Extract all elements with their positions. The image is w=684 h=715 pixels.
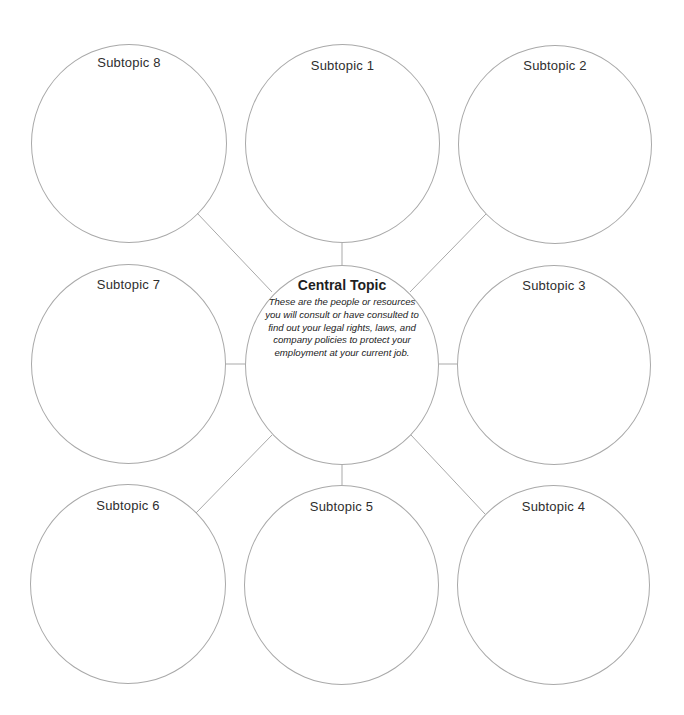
subtopic-6-label: Subtopic 6 [31,498,225,513]
central-topic-title: Central Topic [246,277,438,293]
subtopic-1-label: Subtopic 1 [246,58,439,73]
subtopic-7-bubble: Subtopic 7 [31,264,226,464]
subtopic-2-bubble: Subtopic 2 [458,45,652,244]
subtopic-4-bubble: Subtopic 4 [457,485,650,685]
subtopic-1-bubble: Subtopic 1 [245,44,440,243]
subtopic-7-label: Subtopic 7 [32,277,225,292]
subtopic-4-label: Subtopic 4 [458,499,649,514]
central-topic-description: These are the people or resources you wi… [260,296,424,360]
subtopic-2-label: Subtopic 2 [459,58,651,73]
subtopic-8-bubble: Subtopic 8 [31,44,227,243]
subtopic-5-label: Subtopic 5 [245,499,438,514]
subtopic-6-bubble: Subtopic 6 [30,484,226,684]
subtopic-3-bubble: Subtopic 3 [457,265,651,465]
subtopic-8-label: Subtopic 8 [32,55,226,70]
subtopic-3-label: Subtopic 3 [458,278,650,293]
subtopic-5-bubble: Subtopic 5 [244,485,439,685]
central-topic-bubble: Central Topic These are the people or re… [245,265,439,465]
